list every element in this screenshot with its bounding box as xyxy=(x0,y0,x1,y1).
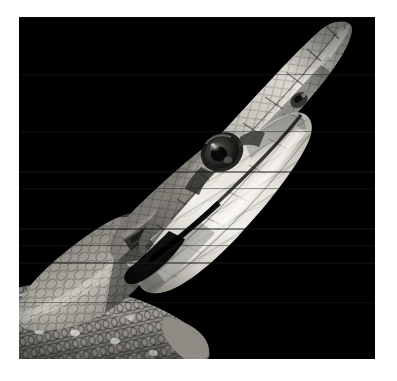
snake-head-photograph: Close-up grayscale photograph of a snake… xyxy=(19,17,375,359)
scan-banding xyxy=(19,17,375,359)
photo-canvas xyxy=(19,17,375,359)
page-root: Close-up grayscale photograph of a snake… xyxy=(0,0,397,381)
